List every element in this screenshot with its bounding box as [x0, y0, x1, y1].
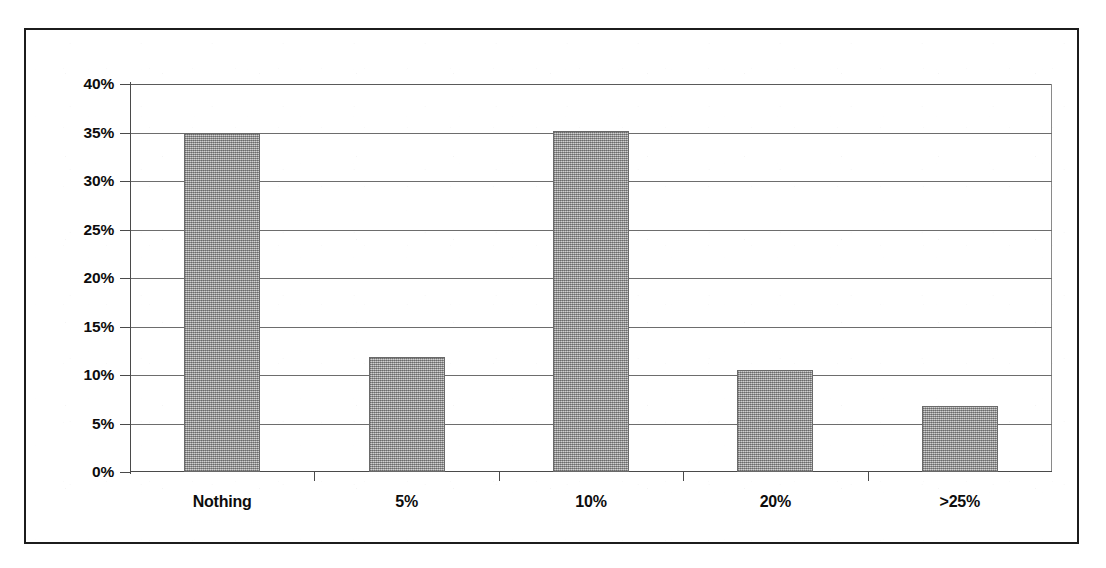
y-axis-label: 30%: [14, 173, 114, 189]
y-tick-mark: [120, 327, 131, 328]
y-axis-label: 40%: [14, 76, 114, 92]
y-axis-labels: 0%5%10%15%20%25%30%35%40%: [8, 30, 114, 568]
y-tick-mark: [120, 230, 131, 231]
y-axis-label: 0%: [14, 464, 114, 480]
y-tick-mark: [120, 278, 131, 279]
x-axis-label: 10%: [499, 494, 683, 510]
y-axis-label: 35%: [14, 125, 114, 141]
x-axis-label: 20%: [683, 494, 867, 510]
y-tick-mark: [120, 133, 131, 134]
y-axis-label: 10%: [14, 367, 114, 383]
x-axis-label: Nothing: [130, 494, 314, 510]
x-axis-label: >25%: [868, 494, 1052, 510]
y-tick-marks: [26, 30, 1077, 542]
y-tick-mark: [120, 375, 131, 376]
x-axis-label: 5%: [314, 494, 498, 510]
y-tick-mark: [120, 181, 131, 182]
y-tick-mark: [120, 84, 131, 85]
y-tick-mark: [120, 472, 131, 473]
y-axis-label: 20%: [14, 270, 114, 286]
y-axis-label: 5%: [14, 416, 114, 432]
y-axis-label: 15%: [14, 319, 114, 335]
chart-frame: 0%5%10%15%20%25%30%35%40% Nothing5%10%20…: [24, 28, 1079, 544]
y-tick-mark: [120, 424, 131, 425]
y-axis-label: 25%: [14, 222, 114, 238]
